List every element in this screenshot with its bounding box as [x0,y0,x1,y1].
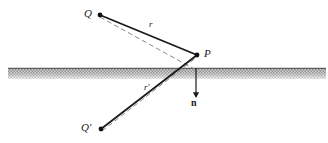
normal-vector-label-n: n [191,98,197,108]
ray-qprime-to-p [101,55,197,129]
segment-label-r-prime: r' [144,83,149,92]
reflection-diagram-figure: Q P Q' r r' n [0,0,328,143]
diagram-canvas [0,0,328,143]
segment-label-r: r [149,20,153,29]
dashed-ray-q-to-surface [100,17,196,70]
point-dot-q [98,13,103,18]
point-label-p: P [204,48,211,59]
point-label-qprime: Q' [81,122,91,133]
point-label-q: Q [84,8,92,19]
point-dot-p [195,53,200,58]
point-dot-qprime [99,127,104,132]
